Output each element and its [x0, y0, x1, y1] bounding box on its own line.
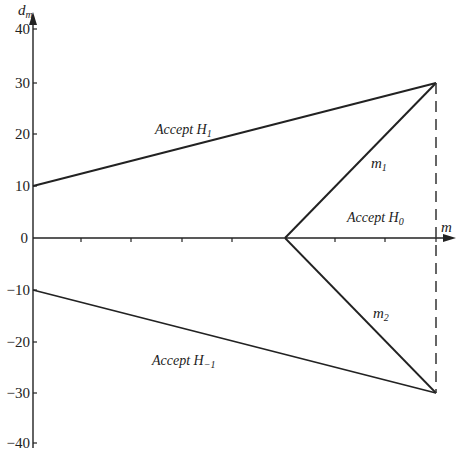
- y-tick-neg30: −30: [7, 385, 30, 401]
- region-label-accept-h-1: Accept H−1: [151, 353, 215, 370]
- y-tick-neg40: −40: [7, 435, 30, 451]
- region-label-accept-h1: Accept H1: [154, 122, 212, 139]
- m2-label: m2: [373, 305, 389, 323]
- m1-label: m1: [371, 155, 387, 173]
- y-tick-20: 20: [15, 126, 30, 142]
- region-label-accept-h0: Accept H0: [346, 210, 404, 227]
- x-axis-label: m: [441, 219, 452, 235]
- y-tick-neg10: −10: [7, 282, 30, 298]
- y-tick-neg20: −20: [7, 334, 30, 350]
- x-axis-arrow-icon: [443, 234, 456, 242]
- m2-line: [285, 238, 436, 393]
- sequential-test-diagram: 40 30 20 10 0 −10 −20 −30 −40 dm m Accep…: [0, 0, 460, 457]
- y-axis-label: dm: [18, 2, 33, 20]
- y-tick-0: 0: [21, 230, 29, 246]
- y-tick-30: 30: [15, 75, 30, 91]
- y-tick-40: 40: [15, 21, 30, 37]
- y-axis: 40 30 20 10 0 −10 −20 −30 −40 dm: [7, 2, 37, 451]
- y-tick-10: 10: [15, 178, 30, 194]
